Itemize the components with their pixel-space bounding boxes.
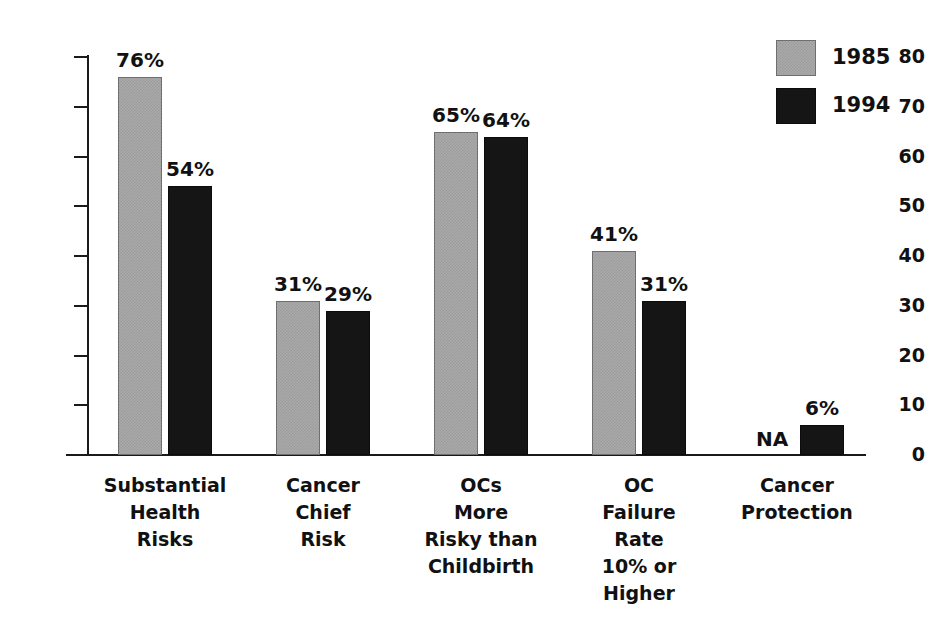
legend-label-1994: 1994 bbox=[832, 95, 890, 116]
y-axis-tick-mark bbox=[74, 404, 88, 406]
y-axis-tick-label: 40 bbox=[885, 246, 925, 265]
y-axis-tick-mark bbox=[74, 205, 88, 207]
y-axis-tick-label: 60 bbox=[885, 147, 925, 166]
legend-swatch-icon-1994 bbox=[776, 88, 816, 124]
y-axis-tick-label: 0 bbox=[885, 445, 925, 464]
bar-value-label: 31% bbox=[619, 274, 709, 294]
y-axis-tick-mark bbox=[74, 255, 88, 257]
bar-1985-2[interactable] bbox=[434, 132, 478, 455]
y-axis-tick-mark bbox=[74, 106, 88, 108]
y-axis-tick-label: 70 bbox=[885, 97, 925, 116]
x-axis-label-line: 10% or bbox=[544, 553, 734, 580]
bar-1994-1[interactable] bbox=[326, 311, 370, 455]
bar-1994-4[interactable] bbox=[800, 425, 844, 455]
bar-value-label: 64% bbox=[461, 110, 551, 130]
bar-value-label: 6% bbox=[777, 398, 867, 418]
y-axis-tick-mark bbox=[74, 56, 88, 58]
y-axis-tick-mark bbox=[68, 454, 89, 456]
bar-value-label: 76% bbox=[95, 50, 185, 70]
bar-1994-3[interactable] bbox=[642, 301, 686, 455]
y-axis-tick-label: 30 bbox=[885, 296, 925, 315]
bar-1994-0[interactable] bbox=[168, 186, 212, 455]
y-axis-tick-label: 80 bbox=[885, 47, 925, 66]
y-axis-tick-mark bbox=[74, 305, 88, 307]
y-axis-tick-label: 50 bbox=[885, 196, 925, 215]
x-axis-label-line: Higher bbox=[544, 580, 734, 607]
bar-chart: 80706050403020100 76%31%65%41%NA54%29%64… bbox=[0, 0, 925, 632]
legend-swatch-icon-1985 bbox=[776, 40, 816, 76]
x-axis-label-line: Cancer bbox=[702, 472, 892, 499]
bar-na-label: NA bbox=[742, 429, 802, 449]
bar-value-label: 54% bbox=[145, 159, 235, 179]
y-axis-tick-label: 10 bbox=[885, 395, 925, 414]
bar-value-label: 29% bbox=[303, 284, 393, 304]
legend-label-1985: 1985 bbox=[832, 47, 890, 68]
y-axis-tick-mark bbox=[74, 355, 88, 357]
x-axis-label-line: Rate bbox=[544, 526, 734, 553]
x-axis-label-line: Protection bbox=[702, 499, 892, 526]
bar-1994-2[interactable] bbox=[484, 137, 528, 455]
x-axis-label-4: CancerProtection bbox=[702, 472, 892, 526]
bar-1985-0[interactable] bbox=[118, 77, 162, 455]
y-axis-tick-mark bbox=[74, 156, 88, 158]
y-axis-tick-label: 20 bbox=[885, 346, 925, 365]
bar-1985-1[interactable] bbox=[276, 301, 320, 455]
bar-value-label: 41% bbox=[569, 224, 659, 244]
